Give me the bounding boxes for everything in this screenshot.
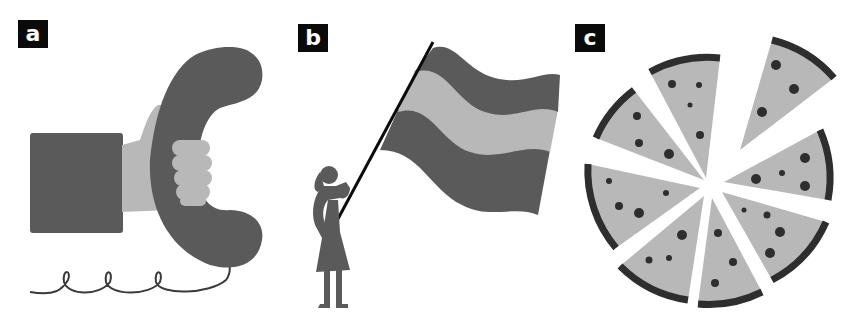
sleeve [30,133,123,233]
flag-woman-illustration [280,0,560,326]
pizza-slice [724,130,830,200]
pizza-illustration [560,0,849,326]
phone-cord [30,258,230,293]
phone-hand-illustration [0,0,280,326]
panel-b: b [280,0,560,326]
fingers [172,140,212,206]
panel-c: c [560,0,849,326]
panel-a: a [0,0,280,326]
woman-figure [313,166,350,308]
pizza-slices [588,40,834,304]
